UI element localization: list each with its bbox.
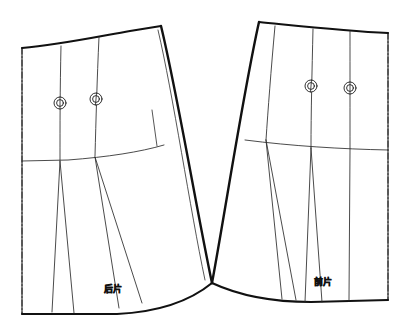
- front-piece-label: 前片: [314, 276, 333, 287]
- pattern-canvas: 后片: [0, 0, 407, 335]
- pattern-drawing: 后片: [0, 0, 407, 335]
- back-piece-label: 后片: [104, 283, 123, 294]
